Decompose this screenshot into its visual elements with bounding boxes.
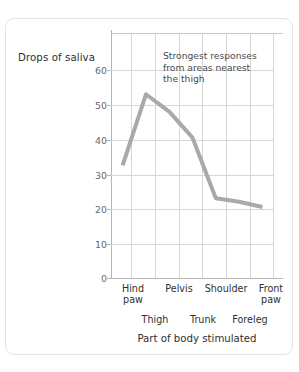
x-label-front-paw-line1: Front [251, 283, 291, 294]
gridline-horizontal [111, 209, 274, 210]
x-label-front-paw: Front paw [251, 283, 291, 305]
y-tick-mark [107, 244, 111, 245]
y-tick-mark [107, 209, 111, 210]
chart-annotation: Strongest responses from areas nearest t… [163, 50, 281, 85]
x-label-front-paw-line2: paw [251, 294, 291, 305]
y-tick-label-60: 60 [85, 65, 107, 76]
y-tick-label-30: 30 [85, 170, 107, 181]
x-label-pelvis-line1: Pelvis [157, 283, 201, 294]
y-tick-mark [107, 278, 111, 279]
gridline-horizontal [111, 105, 274, 106]
y-tick-mark [107, 140, 111, 141]
x-label-foreleg: Foreleg [226, 314, 274, 325]
x-axis-line [111, 278, 283, 279]
y-tick-mark [107, 105, 111, 106]
x-axis-title: Part of body stimulated [111, 333, 283, 344]
x-label-shoulder: Shoulder [202, 283, 250, 294]
y-tick-labels: 60 50 40 30 20 10 0 [83, 0, 107, 372]
x-label-hind-paw-line2: paw [111, 294, 155, 305]
x-label-thigh: Thigh [133, 314, 177, 325]
y-tick-mark [107, 175, 111, 176]
y-tick-label-20: 20 [85, 204, 107, 215]
x-label-hind-paw-line1: Hind [111, 283, 155, 294]
x-label-pelvis: Pelvis [157, 283, 201, 294]
gridline-horizontal [111, 175, 274, 176]
x-label-trunk: Trunk [181, 314, 225, 325]
annotation-line-1: Strongest responses [163, 50, 281, 62]
gridline-horizontal [111, 140, 274, 141]
y-tick-label-40: 40 [85, 135, 107, 146]
x-label-shoulder-line1: Shoulder [202, 283, 250, 294]
x-label-hind-paw: Hind paw [111, 283, 155, 305]
y-tick-label-0: 0 [85, 273, 107, 284]
gridline-horizontal [111, 244, 274, 245]
annotation-line-2: from areas nearest [163, 62, 281, 74]
y-tick-label-50: 50 [85, 100, 107, 111]
annotation-line-3: the thigh [163, 73, 281, 85]
y-tick-label-10: 10 [85, 239, 107, 250]
y-tick-mark [107, 70, 111, 71]
